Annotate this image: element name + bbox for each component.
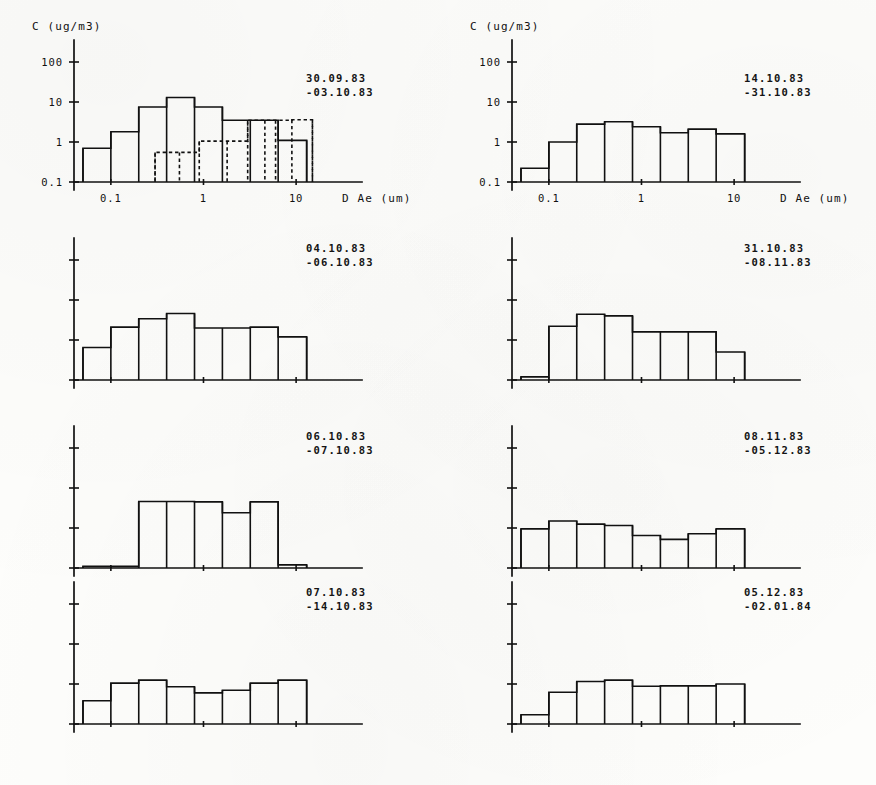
- x-axis-title: D Ae (um): [342, 192, 412, 205]
- histogram-solid: [83, 501, 307, 568]
- panel-4: 07.10.83-14.10.83: [14, 572, 414, 762]
- panel-1: 0.11101000.1110C (ug/m3)D Ae (um)30.09.8…: [14, 30, 414, 220]
- histogram-solid: [521, 680, 745, 724]
- date-range-label: 07.10.83-14.10.83: [306, 586, 374, 613]
- x-axis-tick-label: 1: [200, 192, 207, 204]
- y-axis-tick-label: 1: [494, 136, 501, 148]
- x-axis-tick-label: 1: [638, 192, 645, 204]
- date-from: 31.10.83: [744, 242, 804, 254]
- panel-6: 31.10.83-08.11.83: [452, 228, 852, 418]
- y-axis-tick-label: 10: [487, 96, 501, 108]
- date-from: 08.11.83: [744, 430, 804, 442]
- date-from: 30.09.83: [306, 72, 366, 84]
- date-to: -08.11.83: [744, 256, 812, 268]
- panel-1-plot: 0.11101000.1110C (ug/m3)D Ae (um): [14, 30, 414, 220]
- histogram-solid: [83, 680, 307, 724]
- date-range-label: 06.10.83-07.10.83: [306, 430, 374, 457]
- date-range-label: 31.10.83-08.11.83: [744, 242, 812, 269]
- date-to: -07.10.83: [306, 444, 374, 456]
- y-axis-tick-label: 1: [56, 136, 63, 148]
- date-to: -05.12.83: [744, 444, 812, 456]
- x-axis-title: D Ae (um): [780, 192, 850, 205]
- histogram-solid: [83, 97, 307, 182]
- date-from: 05.12.83: [744, 586, 804, 598]
- x-axis-tick-label: 10: [289, 192, 303, 204]
- date-to: -31.10.83: [744, 86, 812, 98]
- panel-5: 0.11101000.1110C (ug/m3)D Ae (um)14.10.8…: [452, 30, 852, 220]
- y-axis-tick-label: 100: [479, 56, 501, 68]
- date-from: 06.10.83: [306, 430, 366, 442]
- histogram-dashed: [155, 120, 312, 182]
- y-axis-title: C (ug/m3): [470, 20, 540, 33]
- x-axis-tick-label: 0.1: [100, 192, 122, 204]
- y-axis-tick-label: 100: [41, 56, 63, 68]
- panel-8: 05.12.83-02.01.84: [452, 572, 852, 762]
- histogram-solid: [83, 313, 307, 380]
- histogram-solid: [521, 122, 745, 182]
- date-to: -03.10.83: [306, 86, 374, 98]
- panel-5-plot: 0.11101000.1110C (ug/m3)D Ae (um): [452, 30, 852, 220]
- date-from: 07.10.83: [306, 586, 366, 598]
- x-axis-tick-label: 0.1: [538, 192, 560, 204]
- date-to: -02.01.84: [744, 600, 812, 612]
- date-to: -06.10.83: [306, 256, 374, 268]
- date-range-label: 14.10.83-31.10.83: [744, 72, 812, 99]
- date-from: 14.10.83: [744, 72, 804, 84]
- y-axis-title: C (ug/m3): [32, 20, 102, 33]
- x-axis-tick-label: 10: [727, 192, 741, 204]
- panel-2: 04.10.83-06.10.83: [14, 228, 414, 418]
- histogram-solid: [521, 314, 745, 380]
- figure-aerosol-size-distributions: 0.11101000.1110C (ug/m3)D Ae (um)30.09.8…: [0, 0, 876, 785]
- date-range-label: 08.11.83-05.12.83: [744, 430, 812, 457]
- date-range-label: 04.10.83-06.10.83: [306, 242, 374, 269]
- y-axis-tick-label: 0.1: [479, 176, 501, 188]
- date-to: -14.10.83: [306, 600, 374, 612]
- date-range-label: 05.12.83-02.01.84: [744, 586, 812, 613]
- histogram-solid: [521, 521, 745, 568]
- y-axis-tick-label: 10: [49, 96, 63, 108]
- y-axis-tick-label: 0.1: [41, 176, 63, 188]
- date-from: 04.10.83: [306, 242, 366, 254]
- date-range-label: 30.09.83-03.10.83: [306, 72, 374, 99]
